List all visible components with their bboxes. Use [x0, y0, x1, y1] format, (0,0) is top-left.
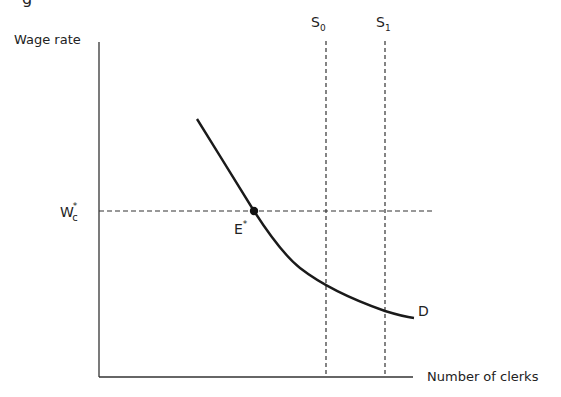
- figure-title-fragment: g: [22, 0, 32, 8]
- wage-label: W*c: [60, 201, 78, 223]
- demand-curve: [197, 119, 414, 318]
- labor-market-diagram: g Wage rate Number of clerks S0 S1 W*c D…: [0, 0, 561, 397]
- equilibrium-point: [250, 207, 258, 215]
- s1-label: S1: [376, 14, 391, 33]
- y-axis-label: Wage rate: [14, 32, 81, 47]
- demand-label: D: [418, 303, 429, 319]
- equilibrium-label: E*: [234, 219, 248, 237]
- x-axis-label: Number of clerks: [427, 369, 539, 384]
- s0-label: S0: [311, 14, 326, 33]
